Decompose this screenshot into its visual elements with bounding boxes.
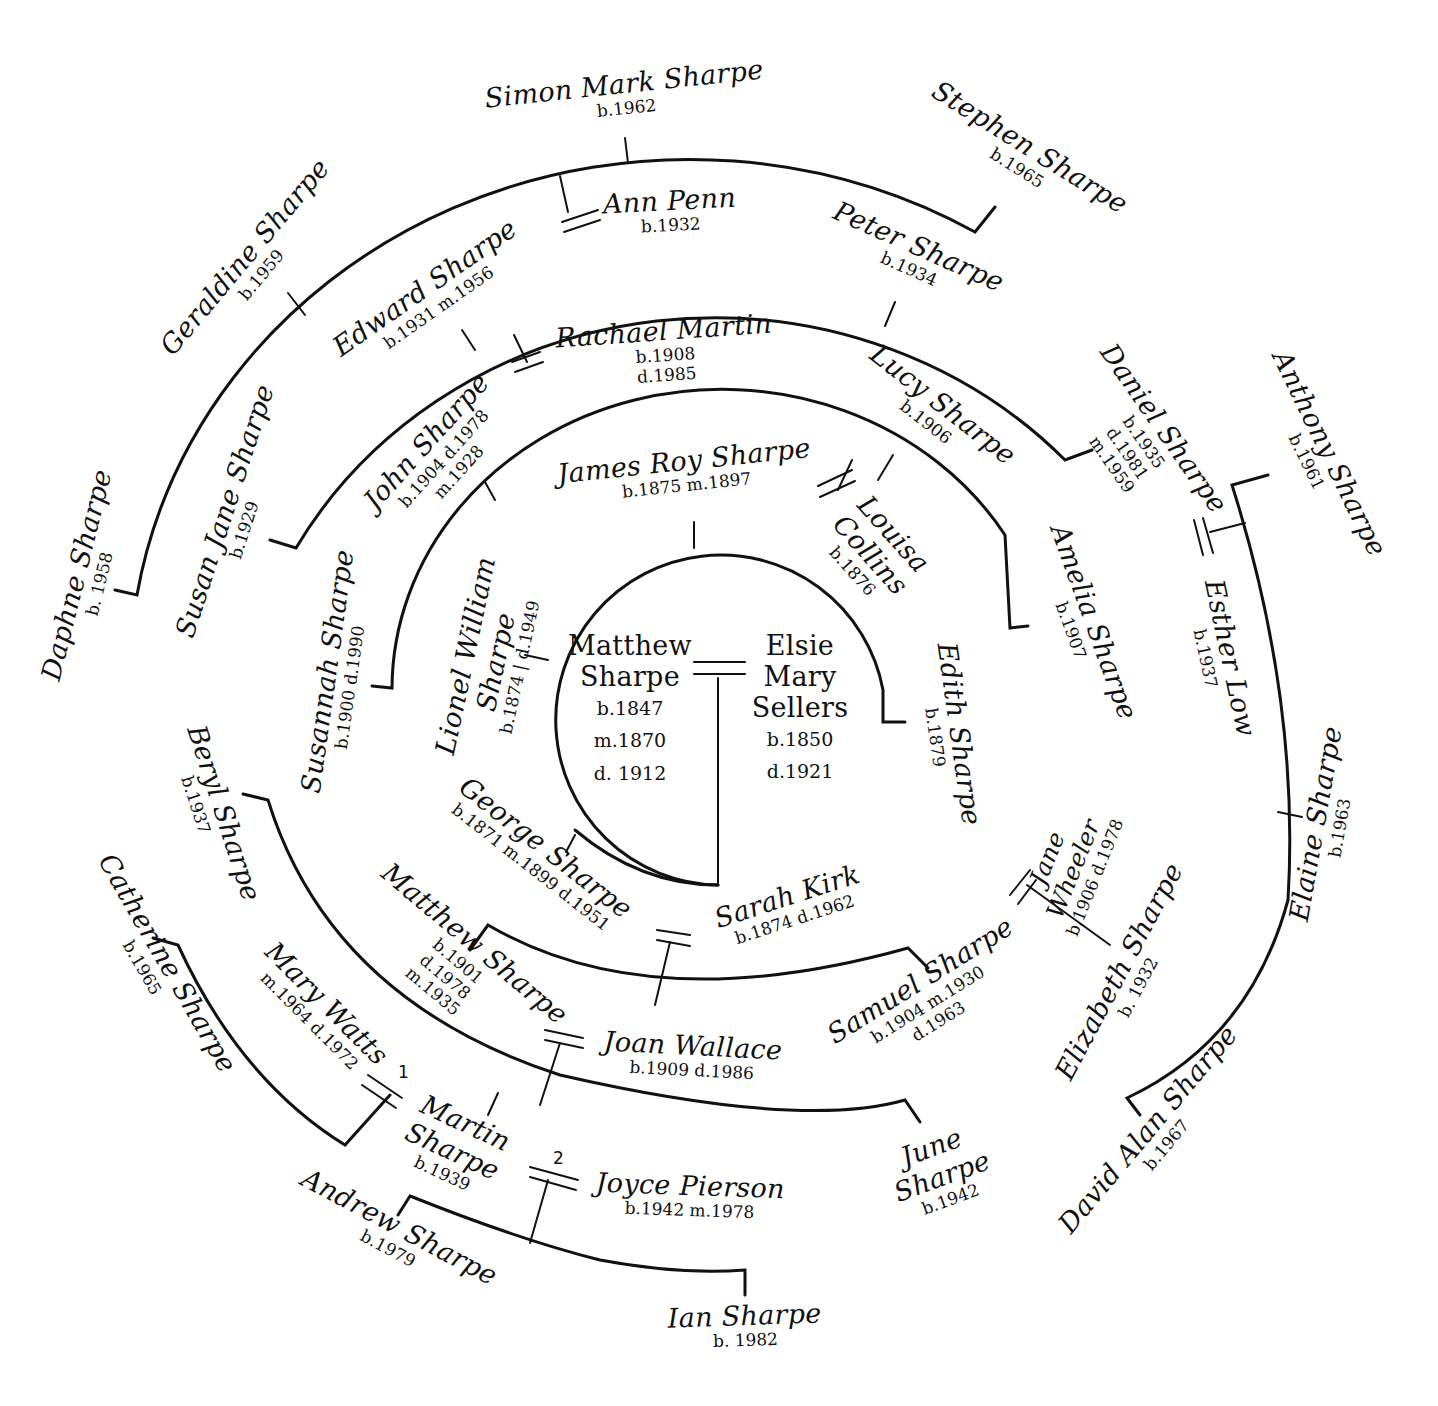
person-ann-penn: Ann Penn b.1932 [594,181,746,239]
person-elsie-mary-sellers: Elsie Mary Sellers b.1850 d.1921 [735,630,865,788]
person-matthew-sharpe-1847: Matthew Sharpe b.1847 m.1870 d. 1912 [560,630,700,789]
ring-gen4-daniel [1127,475,1290,1115]
person-joyce-pierson: Joyce Pierson b.1942 m.1978 [579,1166,801,1224]
family-tree-diagram: Matthew Sharpe b.1847 m.1870 d. 1912 Els… [0,0,1438,1406]
person-ian-sharpe: Ian Sharpe b. 1982 [644,1297,846,1355]
ring-gen3-matthew [243,794,920,1122]
marriage-number-2: 2 [553,1148,564,1168]
